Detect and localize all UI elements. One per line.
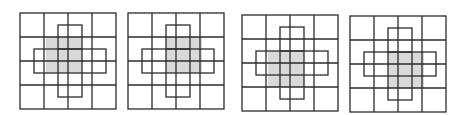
shaded-region	[166, 37, 202, 73]
grid-panel-2	[127, 12, 225, 110]
shaded-region	[388, 52, 424, 88]
grid-panel-1	[19, 12, 117, 110]
shaded-region	[46, 37, 82, 73]
grid-panel-3	[241, 14, 339, 112]
shaded-region	[268, 51, 304, 87]
grid-panel-4	[349, 15, 447, 113]
